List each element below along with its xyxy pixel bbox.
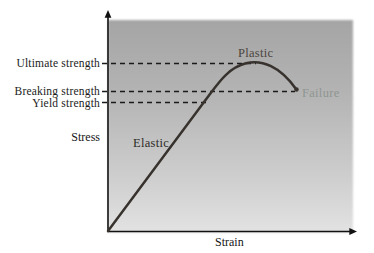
elastic-region-label: Elastic bbox=[133, 137, 169, 150]
x-axis-arrow-icon bbox=[349, 228, 357, 235]
failure-point bbox=[294, 87, 298, 91]
x-axis-label: Strain bbox=[215, 236, 244, 249]
breaking-strength-label: Breaking strength bbox=[15, 85, 100, 97]
ultimate-strength-label: Ultimate strength bbox=[16, 57, 100, 69]
curve-canvas bbox=[0, 0, 374, 253]
yield-strength-label: Yield strength bbox=[32, 97, 100, 109]
y-axis-label: Stress bbox=[71, 131, 100, 144]
failure-label: Failure bbox=[302, 87, 340, 100]
y-axis-arrow-icon bbox=[105, 10, 112, 18]
stress-strain-figure: Ultimate strength Breaking strength Yiel… bbox=[0, 0, 374, 253]
plastic-region-label: Plastic bbox=[238, 47, 273, 60]
